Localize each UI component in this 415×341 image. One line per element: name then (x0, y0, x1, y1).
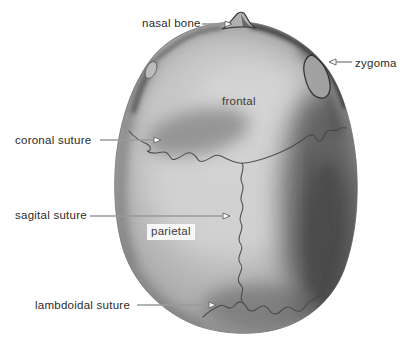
skull-illustration (0, 0, 415, 341)
skull-body (115, 12, 361, 333)
label-nasal-bone: nasal bone (142, 17, 201, 30)
label-parietal: parietal (147, 224, 195, 240)
label-sagital-suture: sagital suture (15, 209, 87, 222)
figure-canvas: nasal bone zygoma frontal coronal suture… (0, 0, 415, 341)
label-zygoma: zygoma (355, 57, 397, 70)
label-lambdoidal-suture: lambdoidal suture (35, 299, 130, 312)
nasal-bone-bump (222, 12, 255, 29)
label-frontal: frontal (222, 95, 256, 108)
label-coronal-suture: coronal suture (15, 134, 91, 147)
